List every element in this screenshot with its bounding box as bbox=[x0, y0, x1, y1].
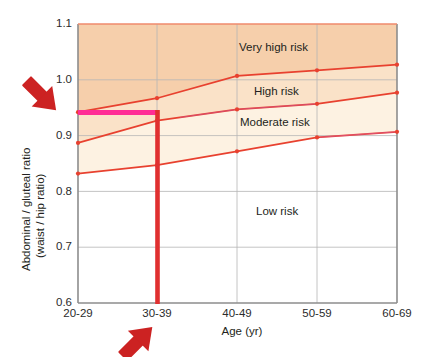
zone-label-low-risk: Low risk bbox=[256, 205, 298, 217]
y-axis-title-line1: Abdominal / gluteal ratio bbox=[20, 148, 32, 271]
x-axis-arrow-icon bbox=[112, 317, 162, 357]
x-tick-60-69: 60-69 bbox=[371, 307, 423, 319]
zone-label-very-high-risk: Very high risk bbox=[239, 41, 308, 53]
x-tick-20-29: 20-29 bbox=[52, 307, 104, 319]
x-tick-50-59: 50-59 bbox=[291, 307, 343, 319]
x-tick-30-39: 30-39 bbox=[131, 307, 183, 319]
y-tick-0-8: 0.8 bbox=[46, 185, 72, 197]
risk-chart: 1.1 1.0 0.9 0.8 0.7 0.6 20-29 30-39 40-4… bbox=[0, 0, 427, 357]
x-axis-title: Age (yr) bbox=[187, 325, 297, 337]
y-tick-1-0: 1.0 bbox=[46, 73, 72, 85]
x-tick-40-49: 40-49 bbox=[211, 307, 263, 319]
zone-label-moderate-risk: Moderate risk bbox=[240, 116, 310, 128]
zone-label-high-risk: High risk bbox=[254, 85, 299, 97]
y-tick-1-1: 1.1 bbox=[46, 17, 72, 29]
y-tick-0-7: 0.7 bbox=[46, 240, 72, 252]
y-axis-title-line2: (waist / hip ratio) bbox=[34, 174, 46, 258]
y-tick-0-9: 0.9 bbox=[46, 129, 72, 141]
